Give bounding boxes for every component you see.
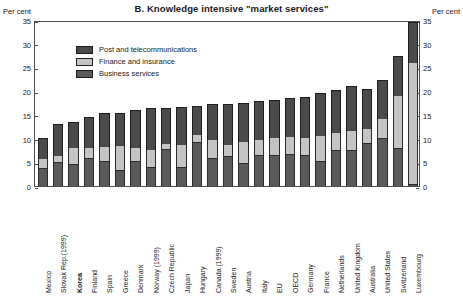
bar-segment-business bbox=[176, 167, 186, 186]
bar-canada-1999 bbox=[207, 104, 217, 186]
legend-label-post: Post and telecommunications bbox=[99, 46, 197, 54]
bar-segment-finance bbox=[192, 135, 202, 142]
bar-segment-business bbox=[130, 161, 140, 186]
bar-switzerland bbox=[393, 56, 403, 186]
bar-segment-finance bbox=[99, 147, 109, 161]
bar-segment-post bbox=[161, 108, 171, 144]
bar-korea bbox=[68, 122, 78, 186]
bar-australia bbox=[362, 89, 372, 186]
y-axis-unit-right: Per cent bbox=[432, 7, 460, 16]
y-axis-unit-left: Per cent bbox=[3, 7, 31, 16]
bar-segment-business bbox=[346, 150, 356, 186]
x-axis-label-greece: Greece bbox=[122, 270, 129, 293]
bar-segment-business bbox=[223, 156, 233, 186]
bar-czech-republic bbox=[161, 108, 171, 186]
bar-segment-business bbox=[408, 184, 418, 186]
bar-segment-post bbox=[207, 104, 217, 140]
bar-france bbox=[315, 93, 325, 186]
legend-swatch-finance-icon bbox=[76, 58, 93, 66]
bar-segment-business bbox=[146, 167, 156, 186]
x-axis-label-united-kingdom: United Kingdom bbox=[354, 243, 361, 293]
y-tick-label-0: 0 bbox=[27, 184, 31, 192]
legend-label-finance: Finance and insurance bbox=[99, 58, 175, 66]
y-tick-label-20: 20 bbox=[423, 89, 431, 97]
bar-segment-post bbox=[115, 113, 125, 146]
bar-segment-post bbox=[285, 98, 295, 137]
y-tick-label-5: 5 bbox=[27, 160, 31, 168]
bar-segment-post bbox=[238, 103, 248, 142]
bar-segment-business bbox=[84, 158, 94, 186]
x-axis-label-germany: Germany bbox=[307, 264, 314, 293]
bar-segment-finance bbox=[130, 148, 140, 161]
bar-italy bbox=[254, 101, 264, 186]
bar-eu bbox=[269, 100, 279, 186]
bar-segment-finance bbox=[223, 145, 233, 156]
y-tick-label-35: 35 bbox=[423, 18, 431, 26]
bar-segment-post bbox=[176, 107, 186, 145]
legend-item-post: Post and telecommunications bbox=[76, 44, 197, 55]
bar-segment-finance bbox=[238, 142, 248, 163]
bar-segment-finance bbox=[346, 131, 356, 150]
x-axis-label-hungary: Hungary bbox=[199, 267, 206, 293]
bar-segment-business bbox=[38, 168, 48, 186]
bar-segment-business bbox=[68, 164, 78, 186]
y-tick-label-10: 10 bbox=[23, 137, 31, 145]
bar-segment-post bbox=[331, 90, 341, 133]
bar-denmark bbox=[130, 110, 140, 186]
bar-segment-finance bbox=[315, 136, 325, 161]
x-axis-label-slovak-rep-1999: Slovak Rep.(1999) bbox=[60, 235, 67, 293]
bar-segment-finance bbox=[53, 156, 63, 163]
y-tick-label-35: 35 bbox=[23, 18, 31, 26]
bar-segment-finance bbox=[84, 148, 94, 157]
bar-spain bbox=[99, 113, 109, 186]
bar-segment-post bbox=[130, 110, 140, 148]
bar-united-states bbox=[377, 80, 387, 186]
bar-slovak-rep-1999 bbox=[53, 124, 63, 186]
bar-segment-business bbox=[254, 155, 264, 186]
bar-mexico bbox=[38, 138, 48, 186]
legend-item-business: Business services bbox=[76, 68, 197, 79]
legend-swatch-business-icon bbox=[76, 70, 93, 78]
bar-greece bbox=[115, 113, 125, 186]
bar-segment-finance bbox=[377, 119, 387, 138]
bar-segment-finance bbox=[285, 137, 295, 154]
x-axis-label-eu: EU bbox=[276, 283, 283, 293]
bar-segment-business bbox=[315, 161, 325, 186]
x-axis-label-switzerland: Switzerland bbox=[400, 257, 407, 293]
bar-japan bbox=[176, 107, 186, 186]
bar-segment-finance bbox=[68, 148, 78, 164]
bar-segment-post bbox=[393, 56, 403, 96]
bar-segment-finance bbox=[269, 138, 279, 155]
bar-hungary bbox=[192, 106, 202, 186]
bar-segment-business bbox=[362, 143, 372, 186]
x-axis-label-australia: Australia bbox=[369, 266, 376, 293]
y-tick-label-30: 30 bbox=[423, 42, 431, 50]
x-axis-label-netherlands: Netherlands bbox=[338, 255, 345, 293]
bar-luxembourg bbox=[408, 22, 418, 186]
x-axis-label-austria: Austria bbox=[245, 271, 252, 293]
bar-segment-finance bbox=[115, 146, 125, 171]
bar-segment-finance bbox=[300, 138, 310, 155]
bar-segment-business bbox=[161, 149, 171, 186]
bar-segment-finance bbox=[207, 140, 217, 158]
x-axis-label-denmark: Denmark bbox=[137, 265, 144, 293]
bar-segment-finance bbox=[331, 133, 341, 150]
bar-finland bbox=[84, 117, 94, 186]
x-axis-label-finland: Finland bbox=[91, 270, 98, 293]
x-axis-label-norway-1999: Norway (1999) bbox=[153, 247, 160, 293]
y-tick-label-25: 25 bbox=[23, 65, 31, 73]
bar-segment-post bbox=[99, 113, 109, 147]
y-tick-label-25: 25 bbox=[423, 65, 431, 73]
bar-segment-post bbox=[192, 106, 202, 134]
x-axis-labels: MexicoSlovak Rep.(1999)KoreaFinlandSpain… bbox=[34, 189, 420, 295]
bar-segment-finance bbox=[38, 159, 48, 168]
bar-united-kingdom bbox=[346, 86, 356, 186]
x-axis-label-italy: Italy bbox=[261, 280, 268, 293]
bar-segment-post bbox=[269, 100, 279, 138]
bar-segment-finance bbox=[176, 145, 186, 167]
y-tick-label-10: 10 bbox=[423, 137, 431, 145]
bar-segment-finance bbox=[393, 96, 403, 148]
bar-segment-business bbox=[53, 162, 63, 186]
bar-segment-business bbox=[99, 161, 109, 186]
x-axis-label-korea: Korea bbox=[76, 273, 83, 293]
